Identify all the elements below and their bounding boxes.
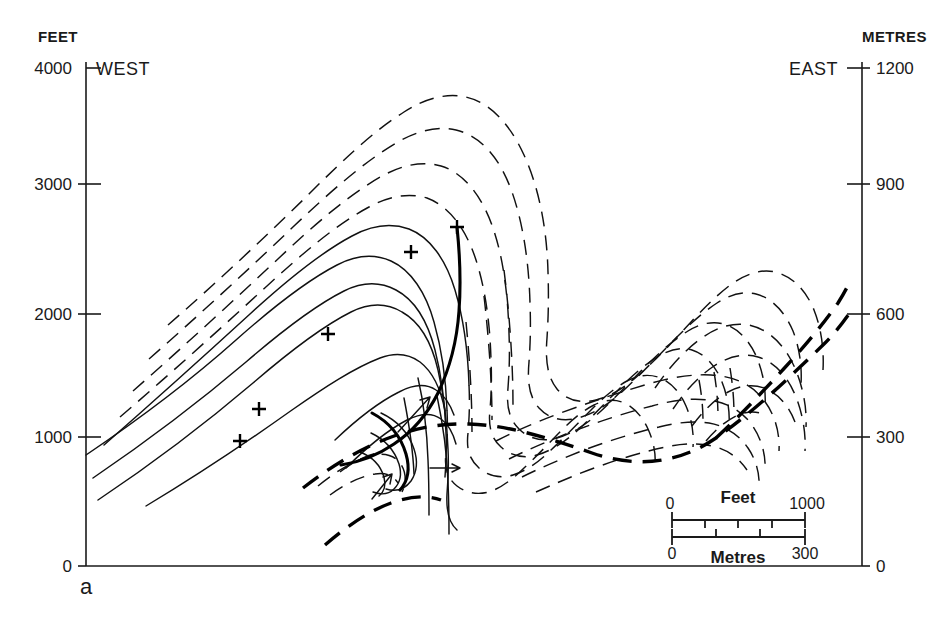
direction-label-west: WEST bbox=[96, 59, 150, 79]
bed-trace-1 bbox=[168, 96, 823, 402]
bed-trace-footwall-2 bbox=[330, 473, 398, 495]
fault-core-loop bbox=[372, 413, 408, 490]
bed-trace-8 bbox=[98, 305, 457, 530]
control-marker-5 bbox=[450, 220, 464, 234]
bed-trace-east-fold-4 bbox=[536, 444, 747, 492]
cross-section-diagram: FEET 4000 3000 2000 1000 0 METRES 1200 9… bbox=[0, 0, 927, 619]
right-axis-tick-label-900: 900 bbox=[876, 175, 904, 194]
direction-label-east: EAST bbox=[789, 59, 838, 79]
left-axis-tick-label-1000: 1000 bbox=[34, 428, 72, 447]
fault-arrow-2 bbox=[372, 474, 392, 499]
control-marker-2 bbox=[252, 402, 266, 416]
left-axis-tick-label-2000: 2000 bbox=[34, 305, 72, 324]
eastern-fold-traces bbox=[496, 324, 806, 492]
control-marker-4 bbox=[404, 245, 418, 259]
right-axis: METRES 1200 900 600 300 0 bbox=[847, 28, 927, 576]
bed-trace-east-anticline-2 bbox=[673, 355, 805, 451]
left-axis-tick-label-0: 0 bbox=[63, 557, 72, 576]
right-axis-tick-label-300: 300 bbox=[876, 428, 904, 447]
fault-traces bbox=[303, 227, 850, 545]
scale-bar-metres-min: 0 bbox=[668, 545, 677, 562]
scale-bar-feet-min: 0 bbox=[666, 495, 675, 512]
bed-trace-2 bbox=[149, 129, 801, 420]
figure-root: FEET 4000 3000 2000 1000 0 METRES 1200 9… bbox=[0, 0, 927, 619]
bed-trace-5-west bbox=[104, 225, 469, 445]
scale-bar-feet-line bbox=[672, 512, 805, 528]
scale-bar-feet-max: 1000 bbox=[789, 495, 825, 512]
scale-bar-feet-label: Feet bbox=[721, 488, 756, 507]
bed-trace-3 bbox=[133, 164, 765, 440]
left-axis-tick-label-4000: 4000 bbox=[34, 59, 72, 78]
bed-trace-east-anticline-3 bbox=[692, 386, 795, 426]
bed-trace-7 bbox=[93, 284, 446, 478]
bed-trace-east-anticline-steep-1 bbox=[714, 372, 718, 417]
right-axis-tick-label-0: 0 bbox=[876, 557, 885, 576]
left-axis-tick-label-3000: 3000 bbox=[34, 175, 72, 194]
panel-label: a bbox=[80, 574, 93, 599]
right-axis-tick-label-1200: 1200 bbox=[876, 59, 914, 78]
bed-trace-east-anticline-4 bbox=[706, 412, 765, 441]
scale-bar-metres-label: Metres bbox=[711, 548, 766, 567]
thrust-fault-lower-splay bbox=[325, 497, 441, 545]
control-marker-1 bbox=[233, 434, 247, 448]
scale-bar-metres-line bbox=[672, 529, 805, 545]
left-axis-title: FEET bbox=[38, 28, 78, 45]
scale-bar: Feet 0 1000 0 300 Metres bbox=[666, 488, 825, 567]
scale-bar-metres-max: 300 bbox=[792, 545, 819, 562]
bed-trace-east-fold-2 bbox=[509, 399, 765, 471]
right-axis-tick-label-600: 600 bbox=[876, 305, 904, 324]
right-axis-title: METRES bbox=[862, 28, 927, 45]
thrust-fault-east-branch bbox=[716, 281, 850, 438]
